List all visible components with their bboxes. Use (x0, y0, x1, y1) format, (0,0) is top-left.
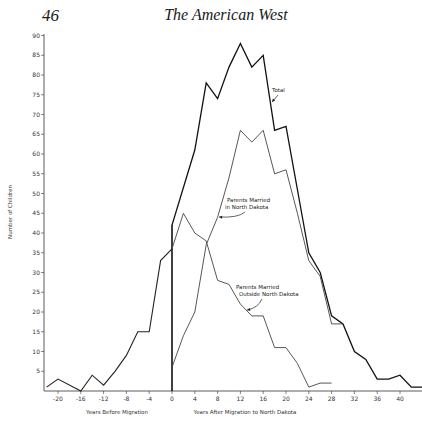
y-tick-label: 20 (32, 308, 40, 315)
x-tick-label: 28 (328, 395, 336, 402)
y-tick-label: 45 (32, 209, 40, 216)
x-tick-label: 12 (237, 395, 245, 402)
y-tick-label: 35 (32, 249, 40, 256)
y-tick-label: 80 (32, 71, 40, 78)
annotation-married-in-nd-line2: in North Dakota (225, 204, 268, 210)
arrow-married-in-nd (219, 212, 245, 217)
annotation-married-outside-nd-line2: Outside North Dakota (239, 291, 299, 297)
x-tick-label: -12 (99, 395, 109, 402)
annotation-married-outside-nd: Parents Married Outside North Dakota (236, 284, 299, 297)
axes (44, 34, 422, 391)
y-tick-label: 30 (32, 269, 40, 276)
y-tick-label: 55 (32, 170, 40, 177)
y-tick-label: 15 (32, 328, 40, 335)
x-tick-label: 4 (193, 395, 197, 402)
series-line-parents-married-outside-north-dakota (172, 213, 332, 387)
y-axis-ticks: 51015202530354045505560657075808590 (32, 32, 44, 375)
x-tick-label: 0 (170, 395, 174, 402)
y-axis-title: Number of Children (7, 185, 13, 239)
arrow-married-outside-nd-head (247, 308, 250, 311)
y-tick-label: 70 (32, 111, 40, 118)
series-lines (47, 43, 422, 391)
x-axis-title-after: Years After Migration to North Dakota (193, 409, 297, 416)
y-tick-label: 65 (32, 130, 40, 137)
y-tick-label: 85 (32, 51, 40, 58)
children-by-migration-chart: 51015202530354045505560657075808590 -20-… (0, 0, 422, 427)
x-tick-label: 16 (259, 395, 267, 402)
y-tick-label: 90 (32, 32, 40, 39)
x-tick-label: -20 (53, 395, 63, 402)
x-tick-label: -4 (146, 395, 152, 402)
y-tick-label: 5 (36, 367, 40, 374)
x-tick-label: -8 (123, 395, 129, 402)
x-tick-label: 20 (282, 395, 290, 402)
annotation-married-in-nd-line1: Parents Married (227, 197, 270, 203)
y-tick-label: 60 (32, 150, 40, 157)
x-axis-ticks: -20-16-12-8-40481216202428323640 (53, 391, 404, 402)
annotation-married-in-nd: Parents Married in North Dakota (225, 197, 270, 210)
annotation-total-label: Total (271, 87, 285, 93)
y-tick-label: 40 (32, 229, 40, 236)
series-line-before-migration (47, 249, 172, 391)
arrow-married-in-nd-head (219, 216, 222, 219)
x-tick-label: 32 (351, 395, 359, 402)
y-tick-label: 25 (32, 288, 40, 295)
x-tick-label: 40 (396, 395, 404, 402)
y-tick-label: 50 (32, 190, 40, 197)
x-axis-title-before: Years Before Migration (85, 409, 148, 416)
annotation-total: Total (271, 87, 285, 93)
series-line-parents-married-in-north-dakota (172, 130, 343, 367)
x-tick-label: 8 (216, 395, 220, 402)
x-tick-label: 36 (373, 395, 381, 402)
y-tick-label: 75 (32, 91, 40, 98)
x-tick-label: -16 (76, 395, 86, 402)
y-tick-label: 10 (32, 348, 40, 355)
annotation-married-outside-nd-line1: Parents Married (236, 284, 279, 290)
series-line-total (172, 43, 422, 387)
x-tick-label: 24 (305, 395, 313, 402)
